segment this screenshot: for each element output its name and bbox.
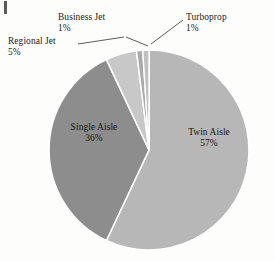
leader-line-turboprop xyxy=(151,20,183,44)
slice-label-turboprop: Turboprop 1% xyxy=(186,12,227,34)
slice-label-single-aisle-value: 36% xyxy=(50,133,138,144)
slice-label-regional-jet-name: Regional Jet xyxy=(8,36,56,46)
slice-label-business-jet-value: 1% xyxy=(58,23,105,34)
slice-label-turboprop-value: 1% xyxy=(186,23,227,34)
slice-label-business-jet: Business Jet 1% xyxy=(58,12,105,34)
slice-label-twin-aisle-value: 57% xyxy=(170,138,248,149)
slice-label-twin-aisle-name: Twin Aisle xyxy=(188,127,230,137)
slice-label-single-aisle: Single Aisle 36% xyxy=(50,122,138,144)
pie-chart-figure: Business Jet 1% Regional Jet 5% Turbopro… xyxy=(0,0,275,261)
slice-label-single-aisle-name: Single Aisle xyxy=(71,122,118,132)
leader-line-business-jet xyxy=(126,37,148,46)
slice-label-business-jet-name: Business Jet xyxy=(58,12,105,22)
slice-label-twin-aisle: Twin Aisle 57% xyxy=(170,127,248,149)
slice-label-regional-jet-value: 5% xyxy=(8,47,56,58)
slice-label-turboprop-name: Turboprop xyxy=(186,12,227,22)
leader-line-regional-jet xyxy=(78,37,124,44)
slice-label-regional-jet: Regional Jet 5% xyxy=(8,36,56,58)
